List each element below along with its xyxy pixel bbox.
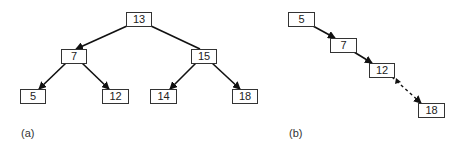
tree-node-5: 5 bbox=[20, 89, 46, 104]
edge-b-5-7 bbox=[313, 26, 335, 38]
tree-node-7: 7 bbox=[61, 49, 87, 64]
chain-node-18: 18 bbox=[418, 103, 445, 118]
edge-7-5 bbox=[39, 63, 66, 89]
edge-13-7 bbox=[76, 26, 127, 49]
chain-node-5: 5 bbox=[288, 12, 315, 27]
edges-layer bbox=[0, 0, 465, 156]
edge-15-18 bbox=[212, 63, 240, 89]
chain-node-7: 7 bbox=[330, 38, 357, 53]
tree-node-12: 12 bbox=[102, 89, 129, 104]
chain-node-12: 12 bbox=[369, 63, 395, 78]
edge-b-7-12 bbox=[354, 52, 372, 63]
caption-b: (b) bbox=[289, 127, 302, 139]
tree-node-13: 13 bbox=[126, 12, 152, 27]
caption-a: (a) bbox=[21, 127, 34, 139]
tree-node-15: 15 bbox=[191, 49, 217, 64]
edge-7-12 bbox=[82, 63, 109, 89]
edge-15-14 bbox=[170, 63, 196, 89]
tree-node-18: 18 bbox=[232, 89, 258, 104]
tree-node-14: 14 bbox=[150, 89, 177, 104]
edge-13-15 bbox=[151, 26, 200, 49]
